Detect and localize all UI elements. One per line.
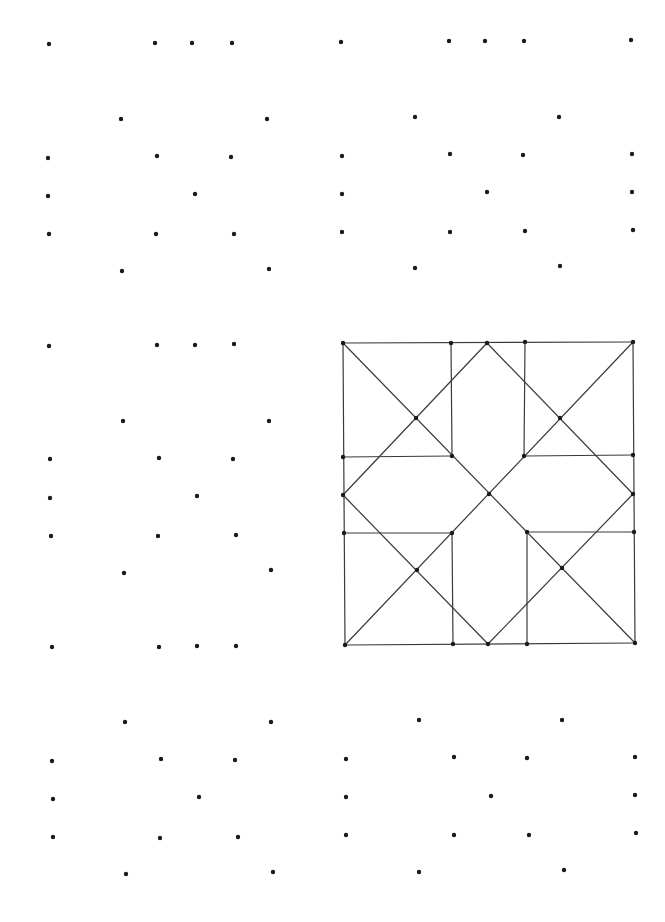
grid-dot [48, 496, 52, 500]
grid-dot [447, 39, 451, 43]
figure-dot [485, 341, 489, 345]
grid-dot [232, 342, 236, 346]
grid-dot [123, 720, 127, 724]
grid-dot [195, 644, 199, 648]
grid-dot [121, 419, 125, 423]
grid-dot [340, 230, 344, 234]
figure-dot [343, 643, 347, 647]
grid-dot [156, 534, 160, 538]
grid-dot [120, 269, 124, 273]
figure-dot [450, 531, 454, 535]
figure-dot [486, 642, 490, 646]
grid-dot [522, 39, 526, 43]
grid-dot [344, 757, 348, 761]
grid-dot [51, 797, 55, 801]
grid-dot [197, 795, 201, 799]
figure-line [524, 342, 525, 456]
bottom-left-grid [50, 720, 275, 876]
grid-dot [271, 870, 275, 874]
figure-dot [560, 566, 564, 570]
grid-dot [527, 833, 531, 837]
top-left-grid [46, 41, 271, 273]
grid-dot [234, 533, 238, 537]
grid-dot [159, 757, 163, 761]
grid-dot [417, 718, 421, 722]
grid-dot [413, 266, 417, 270]
figure-dot [341, 493, 345, 497]
figure-dot [633, 641, 637, 645]
grid-dot [157, 645, 161, 649]
grid-dot [489, 794, 493, 798]
grid-dot [340, 154, 344, 158]
figure-line [343, 456, 452, 457]
figure-dot [525, 642, 529, 646]
grid-dot [629, 38, 633, 42]
figure-dot [631, 492, 635, 496]
grid-dot [47, 344, 51, 348]
grid-dot [525, 756, 529, 760]
middle-left-grid [47, 342, 273, 649]
grid-dot [557, 115, 561, 119]
figure-dot [341, 341, 345, 345]
grid-dot [452, 755, 456, 759]
grid-dot [193, 192, 197, 196]
bottom-right-grid [344, 718, 638, 874]
figure-line [451, 343, 452, 456]
grid-dot [234, 644, 238, 648]
grid-dot [155, 154, 159, 158]
grid-dot [448, 152, 452, 156]
grid-dot [157, 456, 161, 460]
grid-dot [267, 419, 271, 423]
figure-dot [451, 642, 455, 646]
figure-dot [449, 341, 453, 345]
figure-line [524, 455, 633, 456]
grid-dot [231, 457, 235, 461]
grid-dot [154, 232, 158, 236]
grid-dot [558, 264, 562, 268]
grid-dot [265, 117, 269, 121]
grid-dot [46, 156, 50, 160]
grid-dot [195, 494, 199, 498]
figure-dot [631, 453, 635, 457]
grid-dot [193, 343, 197, 347]
grid-dot [51, 835, 55, 839]
grid-dot [452, 833, 456, 837]
grid-dot [630, 152, 634, 156]
grid-dot [236, 835, 240, 839]
grid-dot [562, 868, 566, 872]
top-right-grid [339, 38, 635, 270]
grid-dot [340, 192, 344, 196]
grid-dot [483, 39, 487, 43]
grid-dot [267, 267, 271, 271]
grid-dot [230, 41, 234, 45]
grid-dot [229, 155, 233, 159]
grid-dot [47, 232, 51, 236]
figure-dot [414, 416, 418, 420]
figure-dot [632, 530, 636, 534]
grid-dot [633, 793, 637, 797]
figure-dot [487, 492, 491, 496]
grid-dot [413, 115, 417, 119]
grid-dot [521, 153, 525, 157]
figure-dot [342, 531, 346, 535]
grid-dot [269, 568, 273, 572]
grid-dot [158, 836, 162, 840]
grid-dot [631, 228, 635, 232]
grid-dot [119, 117, 123, 121]
completed-figure [341, 340, 637, 647]
grid-dot [48, 457, 52, 461]
grid-dot [153, 41, 157, 45]
dot-worksheet-canvas [0, 0, 665, 922]
figure-dot [631, 340, 635, 344]
grid-dot [50, 645, 54, 649]
grid-dot [269, 720, 273, 724]
figure-dot [415, 568, 419, 572]
grid-dot [560, 718, 564, 722]
grid-dot [124, 872, 128, 876]
grid-dot [339, 40, 343, 44]
figure-dot [558, 416, 562, 420]
grid-dot [49, 534, 53, 538]
grid-dot [233, 758, 237, 762]
grid-dot [634, 831, 638, 835]
grid-dot [232, 232, 236, 236]
